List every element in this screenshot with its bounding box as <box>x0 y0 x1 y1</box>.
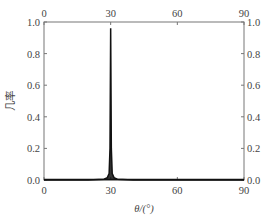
plot-frame <box>44 22 244 180</box>
x-tick-label-top: 0 <box>41 8 46 19</box>
y-tick-label-left: 0.8 <box>27 49 40 60</box>
series-area <box>44 28 244 180</box>
x-tick-label-bottom: 30 <box>105 185 116 196</box>
y-tick-label-left: 0.0 <box>27 175 40 186</box>
x-tick-label-bottom: 60 <box>172 185 183 196</box>
x-axis-title: θ/(°) <box>134 203 154 215</box>
series-line <box>44 28 244 180</box>
x-tick-label-bottom: 90 <box>239 185 250 196</box>
x-tick-label-top: 60 <box>172 8 183 19</box>
y-tick-label-left: 0.2 <box>27 143 40 154</box>
y-tick-label-right: 0.8 <box>247 49 260 60</box>
axes-box <box>44 22 244 180</box>
y-tick-label-right: 0.2 <box>247 143 260 154</box>
x-tick-label-bottom: 0 <box>41 185 46 196</box>
data-series <box>44 28 244 180</box>
axis-ticks: 003030606090900.00.00.20.20.40.40.60.60.… <box>27 8 261 196</box>
probability-chart: 003030606090900.00.00.20.20.40.40.60.60.… <box>0 0 267 222</box>
y-tick-label-left: 0.6 <box>27 80 40 91</box>
y-tick-label-left: 1.0 <box>27 17 40 28</box>
y-tick-label-right: 0.0 <box>247 175 260 186</box>
x-tick-label-top: 30 <box>105 8 116 19</box>
y-tick-label-right: 0.6 <box>247 80 260 91</box>
y-tick-label-right: 1.0 <box>247 17 260 28</box>
y-tick-label-right: 0.4 <box>247 112 261 123</box>
y-tick-label-left: 0.4 <box>27 112 41 123</box>
y-axis-title: 几率 <box>4 91 16 111</box>
